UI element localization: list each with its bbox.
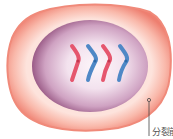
stage-label: 分裂前 — [152, 125, 173, 138]
cell-diagram — [0, 0, 173, 139]
nucleus — [32, 20, 148, 112]
